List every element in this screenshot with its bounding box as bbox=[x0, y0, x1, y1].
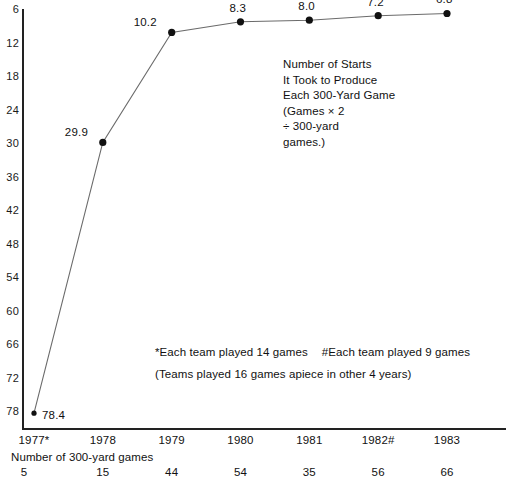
data-point-marker bbox=[168, 29, 175, 36]
footnote-2-left: (Teams played 16 games apiece in other 4… bbox=[155, 368, 412, 380]
footnote-row-1: *Each team played 14 games#Each team pla… bbox=[155, 341, 470, 363]
secondary-value: 56 bbox=[372, 466, 385, 479]
data-point-label: 29.9 bbox=[65, 126, 88, 138]
x-axis-label: 1982# bbox=[362, 434, 395, 447]
annotation-line-0: Number of Starts bbox=[283, 57, 458, 73]
data-point-marker bbox=[443, 10, 450, 17]
x-axis-label: 1981 bbox=[296, 434, 322, 447]
data-point-marker bbox=[306, 17, 313, 24]
footnote-1-left: *Each team played 14 games bbox=[155, 346, 308, 358]
x-axis-label: 1980 bbox=[227, 434, 253, 447]
data-point-marker bbox=[237, 18, 244, 25]
annotation-line-2: Each 300-Yard Game bbox=[283, 88, 458, 104]
annotation-line-4: ÷ 300-yard bbox=[283, 119, 458, 135]
data-point-marker bbox=[99, 139, 106, 146]
secondary-value: 35 bbox=[303, 466, 316, 479]
x-axis-label: 1977* bbox=[18, 434, 49, 447]
chart-footnotes: *Each team played 14 games#Each team pla… bbox=[155, 341, 470, 385]
data-point-label: 8.0 bbox=[298, 0, 315, 12]
secondary-series-values: 5154454355666 bbox=[0, 466, 508, 480]
secondary-value: 44 bbox=[165, 466, 178, 479]
footnote-1-right: #Each team played 9 games bbox=[322, 346, 470, 358]
x-axis-label: 1983 bbox=[434, 434, 460, 447]
secondary-value: 66 bbox=[440, 466, 453, 479]
data-point-label: 6.8 bbox=[436, 0, 453, 5]
clipped-bottom-text bbox=[12, 483, 492, 490]
secondary-series-caption: Number of 300-yard games bbox=[11, 451, 153, 464]
x-axis-label: 1978 bbox=[90, 434, 116, 447]
x-axis-category-labels: 1977*19781979198019811982#1983 bbox=[0, 434, 508, 448]
x-axis-label: 1979 bbox=[158, 434, 184, 447]
data-point-label: 8.3 bbox=[230, 2, 247, 14]
secondary-value: 15 bbox=[96, 466, 109, 479]
data-point-label: 10.2 bbox=[134, 16, 157, 28]
data-point-marker bbox=[31, 411, 36, 416]
annotation-line-1: It Took to Produce bbox=[283, 73, 458, 89]
annotation-line-3: (Games × 2 bbox=[283, 104, 458, 120]
secondary-value: 54 bbox=[234, 466, 247, 479]
data-point-label: 78.4 bbox=[42, 409, 65, 421]
chart-annotation: Number of Starts It Took to Produce Each… bbox=[283, 57, 458, 151]
footnote-row-2: (Teams played 16 games apiece in other 4… bbox=[155, 363, 470, 385]
data-point-label: 7.2 bbox=[367, 0, 384, 8]
chart-figure: 6121824303642485460667278 78.429.910.28.… bbox=[0, 0, 508, 490]
annotation-line-5: games.) bbox=[283, 135, 458, 151]
data-point-marker bbox=[375, 12, 382, 19]
secondary-value: 5 bbox=[21, 466, 28, 479]
